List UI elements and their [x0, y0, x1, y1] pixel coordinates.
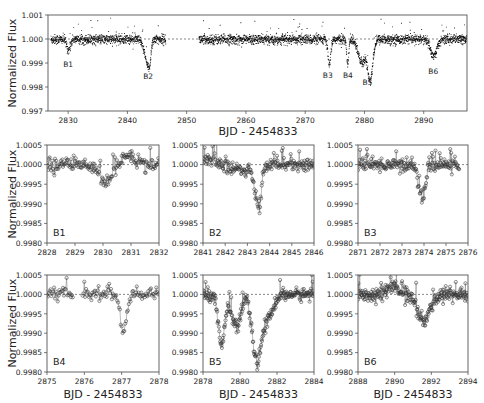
x-tick-label: 2878 [193, 377, 212, 386]
data-points [356, 270, 469, 328]
x-axis-label: BJD - 2454833 [219, 388, 298, 401]
y-tick-label: 1.0000 [327, 160, 353, 169]
y-tick-label: 0.9985 [327, 348, 353, 357]
x-tick-label: 2875 [436, 248, 455, 257]
y-tick-label: 0.9990 [327, 200, 353, 209]
x-tick-label: 2876 [458, 248, 477, 257]
y-tick-label: 0.997 [22, 107, 44, 116]
x-tick-label: 2894 [458, 377, 477, 386]
y-tick-label: 1.0005 [172, 141, 198, 150]
panel-b3: 2871287228732874287528760.99800.99850.99… [327, 141, 478, 257]
y-tick-label: 0.9985 [16, 219, 42, 228]
row2-ylabel: Normalized Flux [6, 278, 19, 367]
x-axis-label: BJD - 2454833 [373, 388, 452, 401]
panel-label: B4 [53, 356, 66, 367]
x-tick-label: 2873 [392, 248, 411, 257]
x-tick-label: 2840 [118, 116, 137, 125]
overview-panel: 28302840285028602870288028900.9970.9980.… [22, 11, 468, 125]
light-curve-figure: 28302840285028602870288028900.9970.9980.… [0, 0, 484, 403]
y-tick-label: 0.9985 [16, 348, 42, 357]
y-tick-label: 0.9995 [16, 180, 42, 189]
x-tick-label: 2880 [230, 377, 249, 386]
dip-annotation: B4 [343, 71, 353, 80]
x-tick-label: 2832 [149, 248, 168, 257]
y-tick-label: 0.9995 [327, 310, 353, 319]
y-tick-label: 0.9995 [16, 310, 42, 319]
panel-label: B1 [53, 227, 66, 238]
x-tick-label: 2829 [65, 248, 84, 257]
y-tick-label: 0.9980 [172, 239, 198, 248]
x-tick-label: 2876 [75, 377, 94, 386]
y-tick-label: 0.9980 [16, 239, 42, 248]
x-tick-label: 2874 [414, 248, 433, 257]
x-tick-label: 2878 [149, 377, 168, 386]
panel-b5: 28782880288228840.99800.99850.99900.9995… [172, 271, 324, 401]
panel-b4: 28752876287728780.99800.99850.99900.9995… [16, 271, 169, 401]
panel-label: B6 [364, 356, 377, 367]
panel-b1: 282828292830283128320.99800.99850.99900.… [16, 141, 169, 257]
overview-xlabel: BJD - 2454833 [218, 125, 297, 138]
dip-annotation: B3 [323, 71, 333, 80]
panel-b6: 28882890289228940.99800.99850.99900.9995… [327, 270, 478, 401]
x-tick-label: 2842 [216, 248, 235, 257]
y-tick-label: 0.9985 [172, 219, 198, 228]
dip-annotation: B5 [362, 78, 372, 87]
x-tick-label: 2882 [267, 377, 286, 386]
y-tick-label: 0.9980 [327, 239, 353, 248]
y-tick-label: 1.0005 [172, 271, 198, 280]
data-points [45, 146, 160, 188]
y-tick-label: 0.9985 [327, 219, 353, 228]
x-tick-label: 2846 [304, 248, 323, 257]
x-tick-label: 2890 [414, 116, 433, 125]
data-points [50, 18, 468, 86]
y-tick-label: 1.0000 [172, 290, 198, 299]
x-tick-label: 2860 [236, 116, 255, 125]
x-tick-label: 2892 [422, 377, 441, 386]
y-tick-label: 0.9995 [172, 310, 198, 319]
y-tick-label: 1.0000 [327, 290, 353, 299]
y-tick-label: 0.9990 [172, 200, 198, 209]
y-tick-label: 1.0000 [16, 160, 42, 169]
dip-annotation: B1 [63, 60, 73, 69]
y-tick-label: 0.9980 [16, 368, 42, 377]
y-tick-label: 0.9980 [327, 368, 353, 377]
y-tick-label: 0.9990 [172, 329, 198, 338]
y-tick-label: 0.9995 [327, 180, 353, 189]
y-tick-label: 1.0005 [16, 271, 42, 280]
y-tick-label: 0.9995 [172, 180, 198, 189]
x-tick-label: 2884 [304, 377, 323, 386]
panel-label: B2 [209, 227, 222, 238]
y-tick-label: 0.9990 [16, 329, 42, 338]
y-tick-label: 0.999 [22, 59, 44, 68]
overview-ylabel: Normalized Flux [6, 18, 19, 107]
y-tick-label: 1.001 [22, 11, 44, 20]
panel-label: B5 [209, 356, 222, 367]
x-tick-label: 2831 [121, 248, 140, 257]
x-tick-label: 2845 [282, 248, 301, 257]
x-tick-label: 2850 [177, 116, 196, 125]
x-tick-label: 2870 [296, 116, 315, 125]
dip-annotation: B6 [428, 67, 438, 76]
y-tick-label: 1.0000 [16, 290, 42, 299]
axes-frame [48, 15, 467, 111]
dip-annotation: B2 [143, 72, 153, 81]
x-tick-label: 2877 [112, 377, 131, 386]
x-tick-label: 2828 [37, 248, 56, 257]
x-tick-label: 2843 [238, 248, 257, 257]
x-axis-label: BJD - 2454833 [63, 388, 142, 401]
figure-canvas: 28302840285028602870288028900.9970.9980.… [0, 0, 484, 403]
x-tick-label: 2871 [348, 248, 367, 257]
y-tick-label: 0.998 [22, 83, 44, 92]
y-tick-label: 1.0000 [172, 160, 198, 169]
y-tick-label: 0.9985 [172, 348, 198, 357]
y-tick-label: 1.0005 [16, 141, 42, 150]
data-points [356, 148, 460, 205]
y-tick-label: 1.0005 [327, 271, 353, 280]
x-tick-label: 2830 [93, 248, 112, 257]
x-tick-label: 2844 [260, 248, 279, 257]
x-tick-label: 2872 [370, 248, 389, 257]
panel-label: B3 [364, 227, 377, 238]
panel-b2: 2841284228432844284528460.99800.99850.99… [172, 135, 324, 257]
x-tick-label: 2890 [385, 377, 404, 386]
x-tick-label: 2841 [193, 248, 212, 257]
